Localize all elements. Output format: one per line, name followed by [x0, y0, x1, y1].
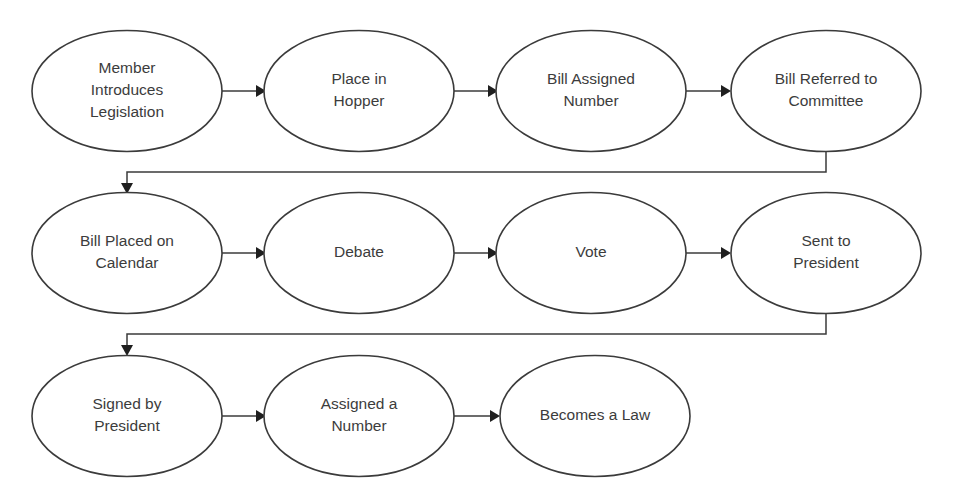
node-ellipse[interactable] [496, 31, 686, 152]
node-label-line: Sent to [801, 232, 850, 249]
connector-elbow-path [127, 152, 826, 184]
node-ellipse[interactable] [264, 356, 454, 477]
arrow-head-icon [121, 345, 133, 356]
arrow-head-icon [721, 247, 731, 259]
edge-n9-to-n10 [222, 410, 266, 422]
node-label-line: Bill Assigned [547, 70, 635, 87]
edge-n2-to-n3 [454, 85, 498, 97]
node-label-line: President [793, 254, 859, 271]
node-label-line: President [94, 417, 160, 434]
node-ellipse[interactable] [32, 193, 222, 314]
node-signed-by-president[interactable]: Signed by President [32, 356, 222, 477]
node-label-line: Committee [789, 92, 864, 109]
node-label-line: Becomes a Law [540, 406, 651, 423]
edge-n1-to-n2 [222, 85, 266, 97]
node-label-line: Legislation [90, 103, 164, 120]
edge-n7-to-n8 [686, 247, 731, 259]
node-ellipse[interactable] [32, 356, 222, 477]
node-bill-assigned-number[interactable]: Bill Assigned Number [496, 31, 686, 152]
node-label-line: Bill Placed on [80, 232, 174, 249]
edge-n4-to-n5-elbow [121, 152, 826, 195]
edge-n10-to-n11 [454, 410, 500, 422]
arrow-head-icon [721, 85, 731, 97]
node-bill-placed-on-calendar[interactable]: Bill Placed on Calendar [32, 193, 222, 314]
node-label-line: Debate [334, 243, 384, 260]
node-place-in-hopper[interactable]: Place in Hopper [264, 31, 454, 152]
node-debate[interactable]: Debate [264, 193, 454, 314]
node-assigned-a-number[interactable]: Assigned a Number [264, 356, 454, 477]
node-bill-referred-to-committee[interactable]: Bill Referred to Committee [731, 31, 921, 152]
edge-n3-to-n4 [686, 85, 731, 97]
node-becomes-a-law[interactable]: Becomes a Law [500, 356, 690, 477]
node-label-line: Assigned a [321, 395, 398, 412]
arrow-head-icon [490, 410, 500, 422]
node-label-line: Introduces [91, 81, 164, 98]
node-label-line: Place in [331, 70, 386, 87]
node-ellipse[interactable] [731, 193, 921, 314]
node-label-line: Number [331, 417, 386, 434]
node-label-line: Member [99, 59, 156, 76]
edge-n6-to-n7 [454, 247, 498, 259]
node-label-line: Number [563, 92, 618, 109]
node-ellipse[interactable] [264, 31, 454, 152]
node-label-line: Bill Referred to [775, 70, 878, 87]
node-label-line: Hopper [334, 92, 385, 109]
node-label-line: Vote [575, 243, 606, 260]
node-sent-to-president[interactable]: Sent to President [731, 193, 921, 314]
node-ellipse[interactable] [731, 31, 921, 152]
edge-n8-to-n9-elbow [121, 314, 826, 357]
flowchart-svg: Member Introduces Legislation Place in H… [0, 0, 954, 498]
flowchart-canvas: Member Introduces Legislation Place in H… [0, 0, 954, 498]
node-member-introduces-legislation[interactable]: Member Introduces Legislation [32, 31, 222, 152]
node-label-line: Signed by [93, 395, 162, 412]
connector-elbow-path [127, 314, 826, 346]
node-label-line: Calendar [96, 254, 159, 271]
node-vote[interactable]: Vote [496, 193, 686, 314]
edge-n5-to-n6 [222, 247, 266, 259]
